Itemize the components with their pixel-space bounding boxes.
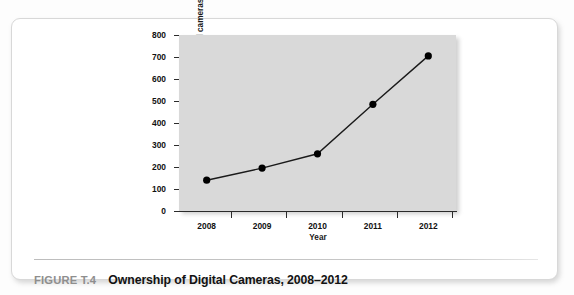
x-axis-tick-label: 2008 xyxy=(197,221,216,231)
data-point-marker xyxy=(425,52,432,59)
figure-card: Unit sales of digital cameras (millions)… xyxy=(11,18,558,280)
data-point-marker xyxy=(203,177,210,184)
x-axis-tick xyxy=(342,212,343,218)
x-axis-tick-label: 2011 xyxy=(364,221,382,231)
x-axis-title: Year xyxy=(179,233,457,242)
y-axis-tick-label: 600 xyxy=(152,74,166,84)
x-axis-tick-label: 2012 xyxy=(419,221,438,231)
data-point-marker xyxy=(259,165,266,172)
plot-area xyxy=(179,35,456,211)
y-axis-tick-label: 500 xyxy=(152,96,166,106)
figure-caption-label: FIGURE T.4 xyxy=(34,274,96,286)
y-axis-tick-label: 800 xyxy=(152,30,166,40)
figure-caption: FIGURE T.4 Ownership of Digital Cameras,… xyxy=(34,269,544,291)
x-axis-tick xyxy=(452,212,453,218)
data-series-line xyxy=(179,35,456,211)
data-point-marker xyxy=(314,150,321,157)
y-axis-tick-label: 200 xyxy=(152,162,166,172)
data-point-marker xyxy=(369,101,376,108)
x-axis-tick xyxy=(397,212,398,218)
y-axis-tick-label: 0 xyxy=(161,206,166,216)
plot-inner xyxy=(179,35,456,211)
y-axis-tick-label: 400 xyxy=(152,118,166,128)
series-polyline xyxy=(207,56,429,180)
caption-divider xyxy=(34,259,538,260)
x-axis-tick-label: 2009 xyxy=(253,221,272,231)
y-axis-tick-label: 300 xyxy=(152,140,166,150)
x-axis-tick xyxy=(231,212,232,218)
figure-caption-title: Ownership of Digital Cameras, 2008–2012 xyxy=(108,273,347,287)
line-chart: Unit sales of digital cameras (millions)… xyxy=(12,19,559,237)
y-axis-tick-label: 100 xyxy=(152,184,166,194)
y-axis-tick-label: 700 xyxy=(152,52,166,62)
x-axis-tick-label: 2010 xyxy=(308,221,327,231)
x-axis: 20082009201020112012 xyxy=(179,211,457,219)
x-axis-tick xyxy=(286,212,287,218)
